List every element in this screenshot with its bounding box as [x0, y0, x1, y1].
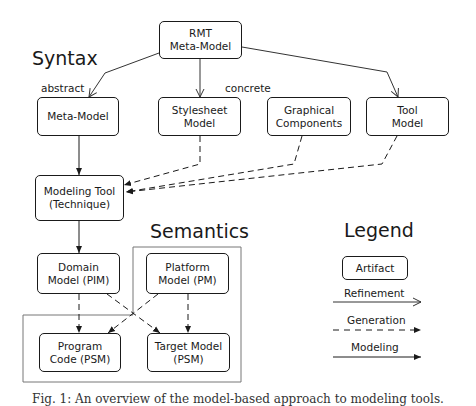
edge-graphical-modeling-tool: [126, 136, 302, 192]
figure-caption: Fig. 1: An overview of the model-based a…: [0, 392, 476, 406]
target-model-node[interactable]: Target Model (PSM): [147, 333, 230, 372]
program-code-node[interactable]: Program Code (PSM): [39, 333, 121, 372]
meta-model-node[interactable]: Meta-Model: [37, 97, 119, 136]
legend-title: Legend: [344, 219, 414, 241]
graphical-components-node[interactable]: Graphical Components: [267, 97, 351, 136]
legend-artifact-node: Artifact: [342, 256, 408, 280]
platform-model-node[interactable]: Platform Model (PM): [146, 253, 229, 294]
edge-rmt-meta-model: [89, 53, 159, 97]
legend-modeling-label: Modeling: [351, 341, 399, 353]
stylesheet-model-node[interactable]: Stylesheet Model: [158, 97, 241, 136]
domain-model-node[interactable]: Domain Model (PIM): [37, 253, 120, 294]
rmt-meta-model-node[interactable]: RMT Meta-Model: [159, 21, 242, 59]
abstract-label: abstract: [41, 82, 84, 94]
edge-tool-model-modeling-tool: [126, 136, 397, 192]
legend-generation-label: Generation: [347, 314, 406, 326]
tool-model-node[interactable]: Tool Model: [366, 97, 449, 136]
syntax-title: Syntax: [32, 47, 98, 69]
semantics-title: Semantics: [150, 220, 249, 242]
modeling-tool-node[interactable]: Modeling Tool (Technique): [35, 175, 124, 221]
edge-stylesheet-modeling-tool: [124, 136, 200, 185]
concrete-label: concrete: [225, 82, 271, 94]
legend-refinement-label: Refinement: [344, 287, 404, 299]
